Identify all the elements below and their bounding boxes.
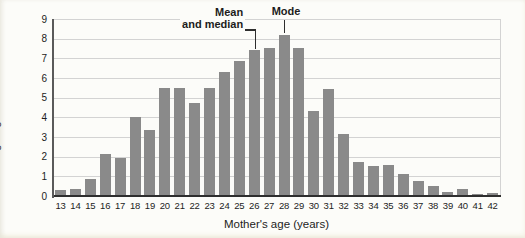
y-tick-label-4: 4 <box>29 112 47 123</box>
mean-median-pointer-vertical <box>255 29 257 49</box>
bar-age-27 <box>264 48 275 196</box>
bar-age-21 <box>174 88 185 196</box>
gridline-y7 <box>53 58 500 59</box>
y-tick-label-0: 0 <box>29 191 47 202</box>
bar-age-16 <box>100 154 111 196</box>
annotation-mode: Mode <box>249 6 323 18</box>
bar-age-19 <box>144 130 155 196</box>
bar-age-32 <box>338 134 349 196</box>
bar-age-31 <box>323 89 334 196</box>
bar-age-25 <box>234 61 245 196</box>
bar-age-36 <box>398 174 409 196</box>
y-axis-line <box>52 19 54 198</box>
bar-age-33 <box>353 162 364 196</box>
y-tick-label-2: 2 <box>29 151 47 162</box>
gridline-y8 <box>53 39 500 40</box>
y-tick-label-9: 9 <box>29 14 47 25</box>
bar-age-34 <box>368 166 379 196</box>
x-tick-label-42: 42 <box>482 200 504 211</box>
x-axis-line <box>52 195 501 197</box>
mean-median-pointer-horizontal <box>245 29 255 31</box>
bar-age-18 <box>130 117 141 196</box>
y-tick-label-8: 8 <box>29 33 47 44</box>
bar-age-15 <box>85 179 96 196</box>
bar-age-35 <box>383 165 394 196</box>
y-tick-label-6: 6 <box>29 73 47 84</box>
bar-age-23 <box>204 88 215 196</box>
bar-age-17 <box>115 158 126 196</box>
bar-age-26 <box>249 50 260 196</box>
gridline-y4 <box>53 117 500 118</box>
gridline-y3 <box>53 137 500 138</box>
bar-age-30 <box>308 111 319 196</box>
mode-pointer-vertical <box>284 20 286 33</box>
y-axis-title: Percent giving birth for the first time <box>0 0 1 219</box>
bar-age-20 <box>159 88 170 196</box>
plot-area: 1314151617181920212223242526272829303132… <box>53 19 500 196</box>
bar-age-24 <box>219 72 230 196</box>
first-birth-age-histogram: Percent giving birth for the first time … <box>0 0 525 238</box>
gridline-y9 <box>53 19 500 20</box>
y-tick-label-7: 7 <box>29 53 47 64</box>
y-tick-label-3: 3 <box>29 132 47 143</box>
bar-age-28 <box>279 35 290 196</box>
gridline-y6 <box>53 78 500 79</box>
annotation-mean-median: Meanand median <box>180 7 245 30</box>
x-axis-title: Mother's age (years) <box>53 218 500 230</box>
plot-right-border <box>500 19 501 196</box>
y-tick-label-5: 5 <box>29 92 47 103</box>
gridline-y5 <box>53 98 500 99</box>
bar-age-29 <box>293 48 304 196</box>
bar-age-22 <box>189 103 200 196</box>
y-tick-label-1: 1 <box>29 171 47 182</box>
bar-age-37 <box>413 181 424 196</box>
